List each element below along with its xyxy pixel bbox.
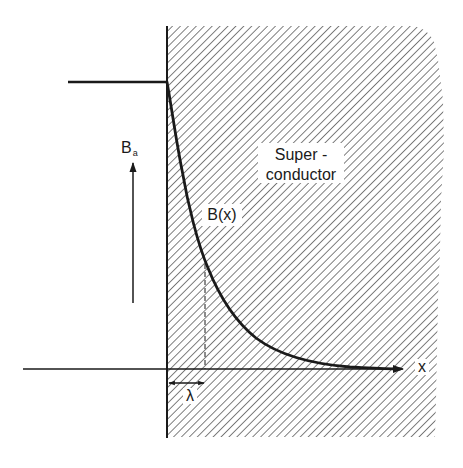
superconductor-label-line1: Super - (258, 145, 344, 165)
applied-field-label-subscript: a (133, 148, 138, 158)
superconductor-label: Super - conductor (258, 143, 344, 183)
x-axis-label: x (415, 359, 429, 375)
superconductor-label-line2: conductor (258, 165, 344, 185)
field-curve-label: B(x) (202, 204, 242, 226)
superconductor-region (167, 26, 444, 437)
applied-field-label-main: B (121, 139, 132, 156)
applied-field-label: Ba (121, 140, 138, 158)
meissner-penetration-diagram (0, 0, 463, 468)
penetration-depth-label: λ (183, 388, 197, 404)
